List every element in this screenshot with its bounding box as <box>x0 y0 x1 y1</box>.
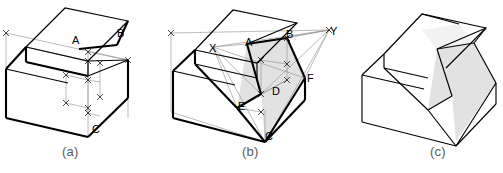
label-b-A: A <box>245 36 253 48</box>
label-b-X: X <box>209 42 217 54</box>
panel-b-drawing: X A B Y F D E C <box>165 0 345 150</box>
panel-c-drawing <box>340 0 503 150</box>
panel-a-point-labels: A B C <box>72 27 124 135</box>
panel-a-drawing: A B C <box>0 0 170 150</box>
label-b-F: F <box>307 72 314 84</box>
figure-sheet: A B C <box>0 0 503 173</box>
label-b-Y: Y <box>330 25 338 37</box>
label-b-E: E <box>238 100 245 112</box>
caption-panel-b: (b) <box>242 144 259 159</box>
shaded-cut-face-c <box>422 24 496 141</box>
label-a-A: A <box>72 34 80 46</box>
block-outline-a <box>6 8 128 137</box>
caption-panel-a: (a) <box>62 144 79 159</box>
label-a-C: C <box>92 123 100 135</box>
label-b-D: D <box>272 85 280 97</box>
label-a-B: B <box>117 27 124 39</box>
label-b-C: C <box>265 130 273 142</box>
caption-panel-c: (c) <box>430 144 446 159</box>
label-b-B: B <box>286 28 293 40</box>
